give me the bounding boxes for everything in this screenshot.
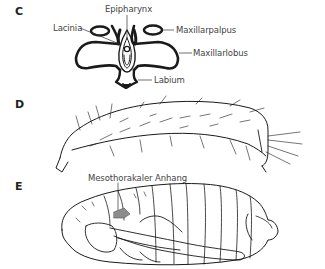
label-labium: Labium xyxy=(154,75,185,85)
panel-d-larva-drawing xyxy=(56,96,302,172)
label-maxillarlobus: Maxillarlobus xyxy=(193,48,248,58)
panel-e-pupa-drawing xyxy=(62,183,278,265)
insect-morphology-figure: C D E xyxy=(0,0,325,269)
panel-c-mouthparts-drawing xyxy=(0,0,325,269)
label-mesothorakaler-anhang: Mesothorakaler Anhang xyxy=(88,173,187,183)
label-lacinia: Lacinia xyxy=(53,23,82,33)
label-epipharynx: Epipharynx xyxy=(105,4,152,14)
label-maxillarpalpus: Maxillarpalpus xyxy=(176,25,236,35)
